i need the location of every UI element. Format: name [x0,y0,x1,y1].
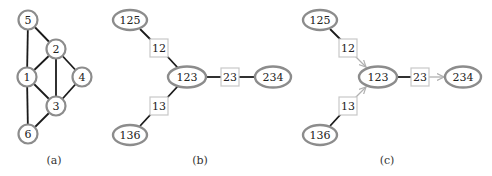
panel-b-junction-tree: 125 12 123 23 234 13 136 (b) [113,10,291,167]
separator-23: 23 [221,68,239,86]
node-6: 6 [19,125,38,144]
clique-234-label: 234 [263,71,284,84]
separator-13: 13 [150,97,168,115]
clique-234: 234 [255,67,291,88]
clique-123: 123 [168,67,206,88]
clique-123: 123 [359,67,397,88]
separator-13: 13 [339,97,357,115]
node-3-label: 3 [53,100,60,113]
clique-136: 136 [303,125,337,145]
separator-23-label: 23 [223,71,237,84]
clique-125: 125 [303,10,337,30]
clique-125-label: 125 [120,14,141,27]
panel-a-graph: 5 2 1 4 3 6 (a) [18,11,92,168]
node-6-label: 6 [25,128,32,141]
clique-123-label: 123 [368,71,389,84]
clique-136: 136 [113,125,147,145]
separator-12: 12 [150,39,168,57]
separator-12-label: 12 [152,42,166,55]
panel-c-directed-junction-tree: 125 12 123 23 234 13 136 (c) [303,10,481,167]
separator-13-label: 13 [341,100,355,113]
arrow-12-to-123 [355,56,366,67]
clique-136-label: 136 [120,129,141,142]
separator-12: 12 [339,39,357,57]
clique-125: 125 [113,10,147,30]
separator-23-label: 23 [413,71,427,84]
node-1-label: 1 [24,71,31,84]
caption-c: (c) [380,154,395,167]
separator-23: 23 [411,68,429,86]
node-1: 1 [18,68,37,87]
caption-b: (b) [192,154,208,167]
clique-123-label: 123 [177,71,198,84]
separator-12-label: 12 [341,42,355,55]
node-4-label: 4 [79,71,86,84]
clique-234-label: 234 [453,71,474,84]
node-5-label: 5 [25,14,32,27]
clique-125-label: 125 [310,14,331,27]
figure-canvas: 5 2 1 4 3 6 (a) [0,0,492,176]
node-4: 4 [73,68,92,87]
arrow-13-to-123 [355,87,366,98]
clique-136-label: 136 [310,129,331,142]
node-5: 5 [19,11,38,30]
node-2: 2 [47,40,66,59]
edge-13-136 [330,114,341,126]
node-2-label: 2 [53,43,60,56]
edge-125-12 [330,29,341,40]
caption-a: (a) [46,154,61,167]
separator-13-label: 13 [152,100,166,113]
clique-234: 234 [445,67,481,88]
node-3: 3 [47,97,66,116]
